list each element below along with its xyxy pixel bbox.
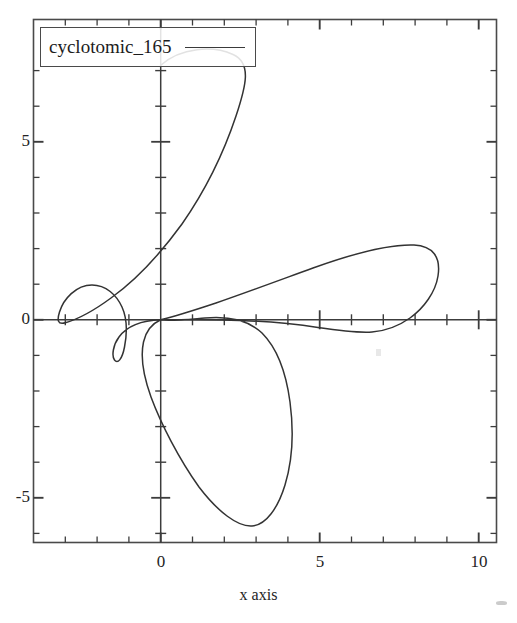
zero-axes	[34, 20, 497, 543]
frame-rect	[34, 20, 497, 543]
data-curve-cyclotomic-165	[58, 49, 438, 526]
plot-frame	[34, 20, 497, 543]
y-tick-label-5: 5	[6, 131, 30, 151]
x-axis-title: x axis	[0, 586, 517, 604]
x-tick-label-10: 10	[462, 552, 496, 572]
y-tick-label-0: 0	[6, 309, 30, 329]
legend-line-swatch	[185, 47, 245, 48]
left-edge-ticks	[34, 71, 44, 534]
x-tick-label-5: 5	[305, 552, 335, 572]
legend: cyclotomic_165	[40, 27, 256, 67]
x-tick-label-0: 0	[146, 552, 176, 572]
y-tick-label-minus-5: -5	[0, 487, 30, 507]
legend-label-cyclotomic-165: cyclotomic_165	[49, 36, 171, 58]
curve-stroke	[58, 49, 438, 526]
scan-artifact-speck	[496, 601, 507, 605]
chart-figure: cyclotomic_165 5 0 -5 0 5 10 x axis	[0, 0, 517, 623]
right-edge-ticks	[487, 71, 497, 534]
scan-artifact-speck-2	[376, 349, 381, 356]
bottom-edge-ticks	[65, 533, 478, 543]
plot-canvas	[0, 0, 517, 623]
